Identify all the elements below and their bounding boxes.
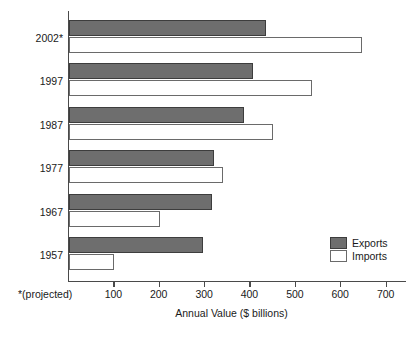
bar-imports-1997 bbox=[69, 80, 312, 96]
x-tick-label-500: 500 bbox=[286, 288, 303, 300]
x-tick-600 bbox=[340, 282, 341, 287]
legend-swatch-imports bbox=[330, 250, 347, 262]
legend-label-imports: Imports bbox=[352, 250, 387, 262]
y-category-label-1967: 1967 bbox=[0, 206, 63, 218]
bar-imports-1967 bbox=[69, 211, 160, 227]
x-tick-label-600: 600 bbox=[332, 288, 349, 300]
x-tick-300 bbox=[204, 282, 205, 287]
x-tick-500 bbox=[295, 282, 296, 287]
bar-imports-1977 bbox=[69, 167, 223, 183]
bar-exports-1977 bbox=[69, 150, 214, 166]
bar-exports-1987 bbox=[69, 107, 244, 123]
legend-label-exports: Exports bbox=[352, 237, 388, 249]
x-tick-400 bbox=[249, 282, 250, 287]
legend-swatch-exports bbox=[330, 237, 347, 249]
bar-imports-1987 bbox=[69, 124, 273, 140]
x-axis-line bbox=[68, 281, 406, 282]
x-tick-label-700: 700 bbox=[377, 288, 394, 300]
legend-item-imports: Imports bbox=[330, 249, 388, 262]
x-tick-100 bbox=[113, 282, 114, 287]
x-tick-label-200: 200 bbox=[150, 288, 167, 300]
y-category-label-2002: 2002* bbox=[0, 32, 63, 44]
bar-exports-1957 bbox=[69, 237, 203, 253]
y-category-label-1957: 1957 bbox=[0, 249, 63, 261]
legend-item-exports: Exports bbox=[330, 236, 388, 249]
bar-exports-1967 bbox=[69, 194, 212, 210]
x-tick-700 bbox=[386, 282, 387, 287]
x-tick-200 bbox=[159, 282, 160, 287]
x-tick-label-300: 300 bbox=[195, 288, 212, 300]
x-tick-label-100: 100 bbox=[105, 288, 122, 300]
x-axis-title: Annual Value ($ billions) bbox=[0, 307, 417, 319]
x-axis-title-text: Annual Value ($ billions) bbox=[175, 307, 287, 319]
y-category-label-1997: 1997 bbox=[0, 75, 63, 87]
y-category-label-1987: 1987 bbox=[0, 119, 63, 131]
bar-exports-1997 bbox=[69, 63, 253, 79]
bar-imports-2002 bbox=[69, 37, 362, 53]
bar-chart: 100200300400500600700 2002*1997198719771… bbox=[0, 0, 417, 349]
y-category-label-1977: 1977 bbox=[0, 162, 63, 174]
chart-legend: Exports Imports bbox=[330, 236, 388, 262]
x-tick-label-400: 400 bbox=[241, 288, 258, 300]
projected-footnote: *(projected) bbox=[18, 288, 72, 300]
bar-imports-1957 bbox=[69, 254, 114, 270]
bar-exports-2002 bbox=[69, 20, 266, 36]
